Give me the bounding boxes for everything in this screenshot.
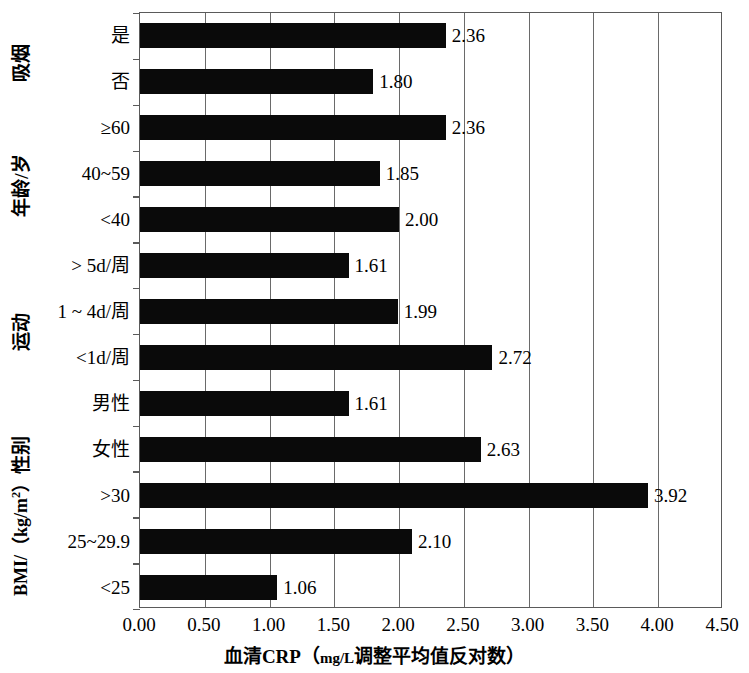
group-label-age-text: 年龄/岁 bbox=[12, 154, 31, 216]
x-axis-tick-label: 2.50 bbox=[433, 614, 493, 636]
group-label-exercise-text: 运动 bbox=[12, 312, 31, 350]
x-axis-tick-text: 4.00 bbox=[641, 614, 674, 635]
category-label: 是 bbox=[111, 26, 137, 45]
category-label: 女性 bbox=[92, 440, 137, 459]
group-label-bmi-tail: ） bbox=[11, 474, 31, 492]
gridline-3.00 bbox=[529, 13, 530, 607]
category-label: > 5d/周 bbox=[71, 256, 137, 275]
bar-value-label: 2.00 bbox=[399, 207, 438, 232]
category-label-text: <25 bbox=[100, 577, 130, 598]
bar-value-label: 2.36 bbox=[446, 115, 485, 140]
bar-value-label: 1.80 bbox=[373, 69, 412, 94]
y-axis-tick bbox=[133, 563, 140, 564]
category-label: <25 bbox=[100, 578, 137, 597]
x-axis-tick-text: 0.00 bbox=[122, 614, 155, 635]
bar bbox=[140, 69, 373, 94]
group-label-bmi-text: BMI/（kg/m2） bbox=[12, 474, 30, 596]
bar-value-label: 1.61 bbox=[349, 391, 388, 416]
x-axis-title: 血清CRP（mg/L调整平均值反对数） bbox=[0, 641, 749, 668]
y-axis-tick bbox=[133, 242, 140, 243]
bar-value-text: 2.00 bbox=[405, 209, 438, 230]
bar-value-label: 1.85 bbox=[380, 161, 419, 186]
category-label-text: 25~29.9 bbox=[67, 531, 130, 552]
gridline-3.50 bbox=[593, 13, 594, 607]
y-axis-tick bbox=[133, 151, 140, 152]
gridline-2.50 bbox=[464, 13, 465, 607]
category-label: 40~59 bbox=[82, 164, 137, 183]
category-label: 否 bbox=[111, 72, 137, 91]
y-axis-tick bbox=[133, 13, 140, 14]
bar-value-label: 3.92 bbox=[648, 483, 687, 508]
x-axis-tick-text: 3.00 bbox=[511, 614, 544, 635]
bar bbox=[140, 207, 399, 232]
x-axis-tick-label: 3.00 bbox=[498, 614, 558, 636]
bar-value-text: 3.92 bbox=[654, 485, 687, 506]
group-label-smoking-text: 吸烟 bbox=[12, 43, 31, 81]
category-label: 男性 bbox=[92, 394, 137, 413]
bar-value-text: 1.61 bbox=[355, 255, 388, 276]
bar-value-text: 1.61 bbox=[355, 393, 388, 414]
category-label-text: 1 ~ 4d/周 bbox=[57, 301, 130, 322]
x-axis-tick-label: 2.00 bbox=[368, 614, 428, 636]
bar bbox=[140, 391, 349, 416]
category-label-text: <1d/周 bbox=[76, 347, 130, 368]
category-label-text: 女性 bbox=[92, 439, 130, 460]
group-label-bmi-base: BMI/（kg/m bbox=[11, 498, 31, 596]
y-axis-tick bbox=[133, 517, 140, 518]
gridline-4.00 bbox=[658, 13, 659, 607]
bar bbox=[140, 115, 446, 140]
bar-value-text: 2.10 bbox=[418, 531, 451, 552]
bar-value-label: 2.72 bbox=[492, 345, 531, 370]
bar-value-label: 1.06 bbox=[277, 575, 316, 600]
bar-value-label: 1.99 bbox=[398, 299, 437, 324]
bar-value-text: 1.80 bbox=[379, 71, 412, 92]
bar-value-text: 1.06 bbox=[283, 577, 316, 598]
category-label-text: 是 bbox=[111, 25, 130, 46]
y-axis-tick bbox=[133, 380, 140, 381]
bar-value-text: 2.72 bbox=[498, 347, 531, 368]
x-axis-tick-text: 2.00 bbox=[381, 614, 414, 635]
x-axis-tick-text: 3.50 bbox=[576, 614, 609, 635]
bar bbox=[140, 345, 492, 370]
category-label: >30 bbox=[100, 486, 137, 505]
category-label: 1 ~ 4d/周 bbox=[57, 302, 137, 321]
group-label-bmi: BMI/（kg/m2） bbox=[0, 462, 42, 608]
bar bbox=[140, 23, 446, 48]
plot-area: 2.36 1.80 2.36 1.85 2.00 1.61 1.99 2.72 … bbox=[139, 12, 722, 608]
y-axis-tick bbox=[133, 426, 140, 427]
x-axis-tick-text: 1.50 bbox=[317, 614, 350, 635]
bar-value-label: 2.36 bbox=[446, 23, 485, 48]
x-axis-title-suffix: 调整平均值反对数） bbox=[354, 646, 525, 667]
category-label-text: > 5d/周 bbox=[71, 255, 130, 276]
bar bbox=[140, 529, 412, 554]
bar bbox=[140, 253, 349, 278]
category-label-text: ≥60 bbox=[101, 117, 130, 138]
x-axis-tick-label: 4.00 bbox=[627, 614, 687, 636]
bar bbox=[140, 161, 380, 186]
bar-chart-figure: 吸烟 年龄/岁 运动 性别 BMI/（kg/m2） 是 否 ≥60 40~59 … bbox=[0, 0, 749, 673]
x-axis-tick-text: 4.50 bbox=[705, 614, 738, 635]
bar bbox=[140, 575, 277, 600]
bar-value-label: 1.61 bbox=[349, 253, 388, 278]
x-axis-title-unit: mg/L bbox=[320, 650, 354, 666]
bar bbox=[140, 437, 481, 462]
x-axis-tick-label: 3.50 bbox=[562, 614, 622, 636]
x-axis-tick-label: 1.00 bbox=[239, 614, 299, 636]
bar-value-text: 1.85 bbox=[386, 163, 419, 184]
category-label-text: 40~59 bbox=[82, 163, 130, 184]
group-label-age: 年龄/岁 bbox=[0, 112, 42, 258]
x-axis-title-prefix: 血清CRP（ bbox=[224, 646, 320, 667]
y-axis-tick bbox=[133, 105, 140, 106]
category-label: ≥60 bbox=[101, 118, 137, 137]
category-label-text: <40 bbox=[100, 209, 130, 230]
group-label-bmi-superscript: 2 bbox=[9, 492, 23, 498]
bar-value-text: 2.36 bbox=[452, 117, 485, 138]
category-label: <1d/周 bbox=[76, 348, 137, 367]
category-label: <40 bbox=[100, 210, 137, 229]
x-axis-tick-label: 4.50 bbox=[692, 614, 749, 636]
x-axis-tick-label: 1.50 bbox=[303, 614, 363, 636]
y-axis-tick bbox=[133, 288, 140, 289]
y-axis-tick bbox=[133, 334, 140, 335]
category-label-text: 否 bbox=[111, 71, 130, 92]
x-axis-tick-text: 1.00 bbox=[252, 614, 285, 635]
